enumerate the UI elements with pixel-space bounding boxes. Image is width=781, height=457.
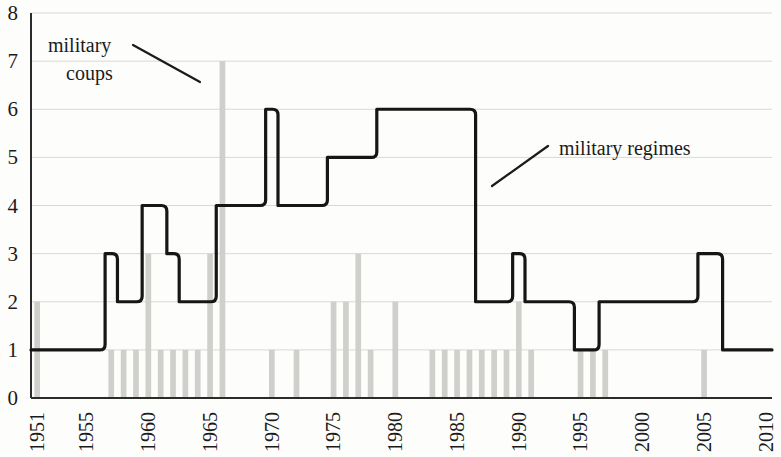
chart-background <box>0 0 781 457</box>
y-axis-tick-labels: 012345678 <box>8 1 19 410</box>
x-tick-label-2005: 2005 <box>693 412 715 452</box>
x-tick-label-1965: 1965 <box>199 412 221 452</box>
bar-1990 <box>516 302 522 398</box>
x-tick-label-1990: 1990 <box>508 412 530 452</box>
bar-1986 <box>467 350 473 398</box>
x-tick-label-1970: 1970 <box>261 412 283 452</box>
x-tick-label-1951: 1951 <box>26 412 48 452</box>
chart-figure: 012345678 195119551960196519701975198019… <box>0 0 781 457</box>
bar-1972 <box>294 350 300 398</box>
x-tick-label-2010: 2010 <box>755 412 777 452</box>
coups-annotation-line-2: coups <box>66 62 113 85</box>
bar-1980 <box>392 302 398 398</box>
y-tick-label-5: 5 <box>8 145 19 169</box>
y-tick-label-8: 8 <box>8 1 19 25</box>
bar-1965 <box>207 254 213 398</box>
bar-1988 <box>491 350 497 398</box>
bar-1959 <box>133 350 139 398</box>
x-tick-label-2000: 2000 <box>631 412 653 452</box>
bar-2005 <box>701 350 707 398</box>
regimes-annotation-label: military regimes <box>559 137 691 160</box>
bar-1996 <box>590 350 596 398</box>
bar-1976 <box>343 302 349 398</box>
bar-1962 <box>170 350 176 398</box>
y-tick-label-6: 6 <box>8 97 19 121</box>
bar-1997 <box>602 350 608 398</box>
y-tick-label-2: 2 <box>8 290 19 314</box>
y-tick-label-3: 3 <box>8 242 19 266</box>
y-tick-label-4: 4 <box>8 194 19 218</box>
bar-1985 <box>454 350 460 398</box>
military-coups-and-regimes-chart: 012345678 195119551960196519701975198019… <box>0 0 781 457</box>
bar-1995 <box>578 350 584 398</box>
bar-1977 <box>355 254 361 398</box>
x-tick-label-1960: 1960 <box>137 412 159 452</box>
y-tick-label-1: 1 <box>8 338 19 362</box>
bar-1975 <box>331 302 337 398</box>
x-tick-label-1955: 1955 <box>75 412 97 452</box>
bar-1960 <box>145 254 151 398</box>
bar-1961 <box>158 350 164 398</box>
y-tick-label-0: 0 <box>8 386 19 410</box>
bar-1978 <box>368 350 374 398</box>
bar-1989 <box>504 350 510 398</box>
bar-1966 <box>220 61 226 398</box>
x-tick-label-1975: 1975 <box>322 412 344 452</box>
bar-1958 <box>121 350 127 398</box>
coups-annotation-line-1: military <box>48 34 111 57</box>
y-tick-label-7: 7 <box>8 49 19 73</box>
bar-1991 <box>528 350 534 398</box>
bar-1970 <box>269 350 275 398</box>
x-tick-label-1980: 1980 <box>384 412 406 452</box>
bar-1964 <box>195 350 201 398</box>
bar-1987 <box>479 350 485 398</box>
bar-1984 <box>442 350 448 398</box>
bar-1963 <box>183 350 189 398</box>
x-tick-label-1995: 1995 <box>569 412 591 452</box>
x-tick-label-1985: 1985 <box>446 412 468 452</box>
bar-1957 <box>108 350 114 398</box>
bar-1983 <box>430 350 436 398</box>
